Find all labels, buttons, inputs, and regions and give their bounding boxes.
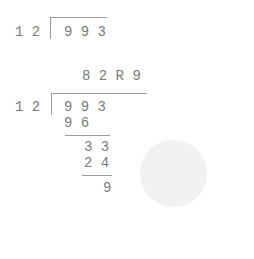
problem-dividend: 9 9 3	[64, 25, 106, 39]
quotient: 8 2 R 9	[82, 69, 141, 83]
step1-product: 9 6	[64, 116, 89, 130]
solution-dividend: 9 9 3	[64, 100, 106, 114]
step2-partial: 3 3	[84, 140, 109, 154]
decorative-circle	[140, 140, 207, 207]
solution-bracket-vertical	[51, 93, 52, 115]
step2-product: 2 4	[84, 156, 109, 170]
problem-divisor: 1 2	[15, 25, 40, 39]
problem-bracket-vertical	[50, 17, 51, 39]
solution-bracket-top	[51, 93, 147, 94]
step1-subtract-line	[65, 135, 110, 136]
solution-divisor: 1 2	[15, 100, 40, 114]
step2-subtract-line	[82, 175, 112, 176]
problem-bracket-top	[50, 17, 107, 18]
final-remainder: 9	[103, 181, 111, 195]
